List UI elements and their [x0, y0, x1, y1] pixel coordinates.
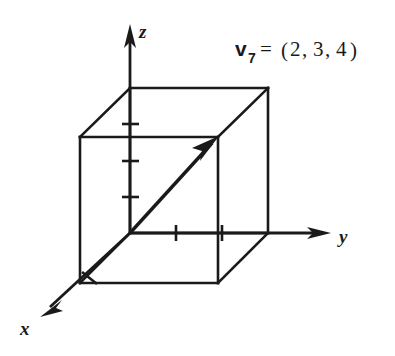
z-axis-label: z — [138, 21, 147, 42]
cube-edge-bottom-right — [218, 233, 268, 283]
vector-label: v 7 = ( 2 , 3 , 4 ) — [235, 37, 357, 66]
vector-arrow-shaft — [130, 143, 212, 233]
vector-diagram: z y x v 7 = ( 2 , 3 , 4 ) — [0, 0, 395, 356]
vector-label-equals: = — [260, 37, 272, 61]
vector-label-component-z: 4 — [336, 37, 347, 61]
x-axis-label: x — [19, 318, 30, 339]
vector-label-sep-2: , — [325, 37, 330, 61]
y-axis-label: y — [337, 226, 348, 247]
x-axis-arrowhead — [40, 300, 63, 317]
vector-label-open-paren: ( — [281, 38, 288, 62]
cube-edge-top-left — [80, 88, 130, 137]
cube-edge-top-right — [218, 88, 268, 137]
x-axis-line — [50, 233, 130, 307]
vector-label-sep-1: , — [302, 37, 307, 61]
vector-label-subscript: 7 — [248, 50, 256, 66]
vector-label-component-y: 3 — [313, 37, 324, 61]
vector-arrow — [130, 136, 219, 233]
vector-label-component-x: 2 — [290, 37, 301, 61]
vector-label-close-paren: ) — [350, 38, 357, 62]
vector-arrowhead — [192, 136, 219, 161]
vector-label-name: v — [235, 37, 247, 60]
